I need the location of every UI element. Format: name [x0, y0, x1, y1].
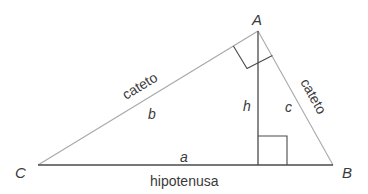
vertex-label-c: C: [15, 164, 26, 181]
vertex-label-a: A: [251, 11, 262, 28]
side-label-h: h: [243, 98, 251, 114]
right-angle-marker-a: [233, 46, 272, 69]
vertex-label-b: B: [342, 164, 352, 181]
hipotenusa-label: hipotenusa: [150, 173, 219, 189]
cateto-label-b: cateto: [119, 69, 160, 103]
right-triangle-diagram: A B C b c h a cateto cateto hipotenusa: [0, 0, 368, 194]
side-b-cateto: [38, 31, 258, 165]
side-label-a: a: [180, 149, 188, 165]
side-label-c: c: [285, 99, 292, 115]
side-label-b: b: [148, 106, 156, 122]
right-angle-marker-h: [258, 136, 287, 165]
